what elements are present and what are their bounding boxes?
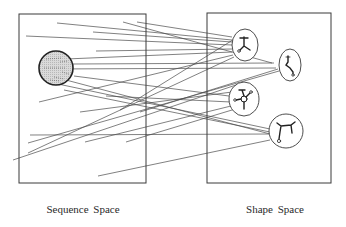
shape-d-node <box>269 114 303 148</box>
sequence-neutral-network-circle <box>39 51 73 85</box>
mapping-line <box>26 36 232 45</box>
mapping-line <box>48 68 276 69</box>
shape-space-label: Shape Space <box>246 203 304 215</box>
mapping-line <box>13 85 236 160</box>
mapping-line <box>106 96 231 102</box>
shape-circle <box>279 49 301 81</box>
shape-circle <box>269 114 303 148</box>
shape-b-node <box>279 49 301 81</box>
shape-c-node <box>229 82 259 116</box>
mapping-line <box>72 63 274 64</box>
sequence-space-label: Sequence Space <box>46 203 119 215</box>
shape-circle <box>232 29 258 61</box>
sequence-shape-mapping-diagram <box>0 0 346 227</box>
mapping-line <box>96 49 232 51</box>
shape-space-box <box>207 13 331 183</box>
mapping-line <box>98 140 270 176</box>
shape-a-node <box>232 29 258 61</box>
shape-nodes <box>229 29 303 148</box>
mapping-line <box>74 76 229 96</box>
mapping-line <box>57 23 232 40</box>
mapping-line <box>126 110 232 142</box>
